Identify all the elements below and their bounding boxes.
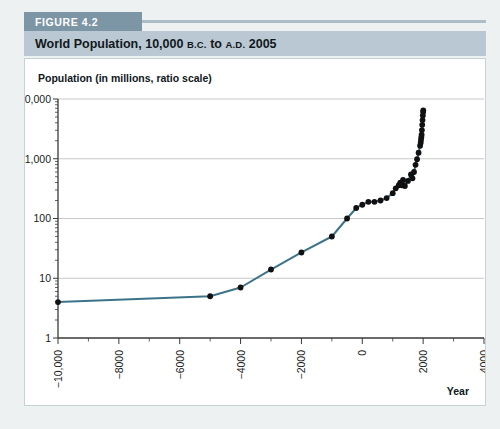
figure-title-bc: B.C. [187,39,207,50]
data-point [344,216,350,222]
data-point [329,234,335,240]
data-point [410,175,416,181]
figure-header: FIGURE 4.2 World Population, 10,000 B.C.… [24,12,486,56]
x-tick-label: −4000 [235,350,247,380]
x-tick-label: 0 [356,350,368,356]
population-line [58,110,423,302]
data-point [207,293,213,299]
figure-title-band: World Population, 10,000 B.C. to A.D. 20… [24,31,486,56]
data-point [413,162,419,168]
figure-title-part-1: World Population, 10,000 [35,37,187,51]
y-tick-label: 1 [45,332,51,344]
data-point [372,199,378,205]
header-rule [142,20,486,23]
data-point [416,150,422,156]
data-point [420,107,426,113]
y-tick-label: 1,000 [25,153,51,165]
figure-title-part-3: 2005 [245,37,276,51]
data-point [384,195,390,201]
figure-title-ad: A.D. [225,39,245,50]
y-tick-label: 10 [39,272,51,284]
x-tick-label: −6000 [174,350,186,380]
x-tick-label: −10,000 [52,350,64,388]
data-point [268,267,274,273]
data-point [402,183,408,189]
chart-panel: Population (in millions, ratio scale) 11… [24,58,486,406]
data-point [238,285,244,291]
data-point [419,127,425,133]
data-point [365,199,371,205]
data-point [411,169,417,175]
x-tick-label: 2000 [417,350,429,374]
population-line-chart: 1101001,00010,000−10,000−8000−6000−4000−… [25,59,485,405]
x-tick-label: 4000 [478,350,485,374]
data-point [400,177,406,183]
data-point [55,299,61,305]
data-point [299,250,305,256]
y-tick-label: 10,000 [25,93,51,105]
figure-number-tab: FIGURE 4.2 [24,12,142,31]
data-point [390,190,396,196]
y-tick-label: 100 [33,212,51,224]
data-point [353,205,359,211]
figure-title-part-2: to [207,37,226,51]
x-axis-title: Year [447,385,469,397]
figure-container: FIGURE 4.2 World Population, 10,000 B.C.… [0,0,500,429]
data-point [414,156,420,162]
figure-number-label: FIGURE 4.2 [24,16,98,28]
data-point [378,198,384,204]
figure-title: World Population, 10,000 B.C. to A.D. 20… [24,37,277,51]
x-tick-label: −2000 [295,350,307,380]
data-point [359,202,365,208]
x-tick-label: −8000 [113,350,125,380]
